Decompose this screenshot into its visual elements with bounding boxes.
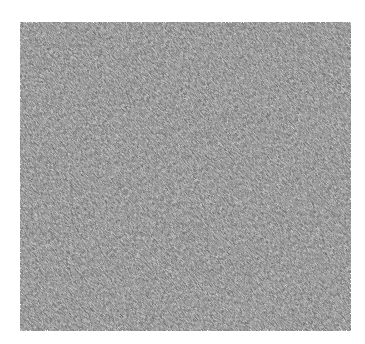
noise-texture <box>20 22 351 331</box>
noise-texture-square <box>20 22 351 331</box>
